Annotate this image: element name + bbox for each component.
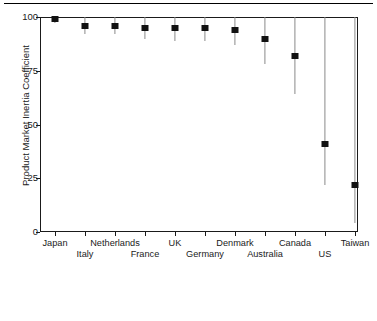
- x-tick-label: Canada: [279, 238, 311, 248]
- point-estimate-marker: [292, 53, 299, 59]
- x-tick-label: Taiwan: [341, 238, 370, 248]
- point-estimate-marker: [352, 182, 359, 188]
- chart-legend: Confidence interval Point estimate: [0, 276, 377, 316]
- chart-figure: Product Market Inertia Coefficient 02550…: [0, 0, 377, 321]
- point-estimate-marker: [142, 25, 149, 31]
- y-tick-label: 50: [4, 120, 38, 130]
- y-axis-tick-labels: 0255075100: [0, 0, 38, 321]
- point-estimate-marker: [262, 36, 269, 42]
- point-estimate-marker: [172, 25, 179, 31]
- top-divider-rule: [4, 3, 373, 4]
- confidence-interval-bar: [354, 17, 355, 223]
- plot-area: [40, 17, 358, 232]
- x-tick-mark: [325, 232, 326, 236]
- x-tick-mark: [55, 232, 56, 236]
- x-tick-mark: [175, 232, 176, 236]
- x-tick-mark: [235, 232, 236, 236]
- x-tick-label: Australia: [247, 249, 283, 259]
- x-tick-label: UK: [169, 238, 182, 248]
- x-tick-label: Germany: [186, 249, 224, 259]
- x-tick-mark: [355, 232, 356, 236]
- y-tick-label: 25: [4, 173, 38, 183]
- y-tick-mark: [36, 17, 40, 18]
- x-tick-mark: [295, 232, 296, 236]
- point-estimate-marker: [112, 23, 119, 29]
- x-tick-label: Italy: [77, 249, 94, 259]
- point-estimate-marker: [232, 27, 239, 33]
- point-estimate-marker: [82, 23, 89, 29]
- y-tick-label: 75: [4, 66, 38, 76]
- x-tick-mark: [115, 232, 116, 236]
- y-tick-mark: [36, 178, 40, 179]
- point-estimate-marker: [52, 16, 59, 22]
- x-tick-mark: [265, 232, 266, 236]
- x-tick-label: France: [131, 249, 160, 259]
- x-tick-mark: [145, 232, 146, 236]
- x-tick-mark: [205, 232, 206, 236]
- point-estimate-marker: [202, 25, 209, 31]
- x-tick-label: US: [319, 249, 332, 259]
- x-tick-label: Japan: [42, 238, 67, 248]
- y-tick-mark: [36, 125, 40, 126]
- y-tick-mark: [36, 71, 40, 72]
- x-tick-label: Netherlands: [90, 238, 140, 248]
- x-tick-label: Denmark: [216, 238, 253, 248]
- x-tick-mark: [85, 232, 86, 236]
- confidence-interval-bar: [324, 17, 325, 185]
- point-estimate-marker: [322, 141, 329, 147]
- y-tick-label: 0: [4, 227, 38, 237]
- y-tick-mark: [36, 232, 40, 233]
- y-tick-label: 100: [4, 12, 38, 22]
